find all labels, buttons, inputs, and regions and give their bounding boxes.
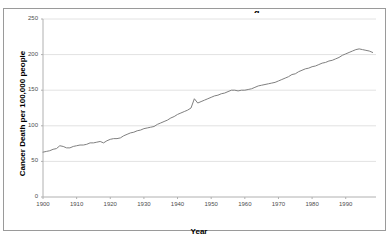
y-tick-label: 0 <box>16 193 38 200</box>
x-tick-label: 1960 <box>232 201 258 208</box>
x-tick-label: 1910 <box>64 201 90 208</box>
x-tick-label: 1940 <box>165 201 191 208</box>
axes-group <box>41 19 346 199</box>
x-tick-label: 1900 <box>30 201 56 208</box>
chart-frame: g 050100150200250 1900191019201930194019… <box>3 8 386 231</box>
data-series-line <box>43 49 373 152</box>
y-tick-label: 250 <box>16 15 38 22</box>
x-axis-title: Year <box>144 227 254 236</box>
gridlines-group <box>43 19 376 197</box>
x-tick-label: 1970 <box>265 201 291 208</box>
y-axis-title: Cancer Death per 100,000 people <box>18 34 27 194</box>
chart-plot-area <box>4 9 387 232</box>
x-tick-label: 1930 <box>131 201 157 208</box>
x-tick-label: 1990 <box>333 201 359 208</box>
x-tick-label: 1920 <box>97 201 123 208</box>
x-tick-label: 1950 <box>198 201 224 208</box>
x-tick-label: 1980 <box>299 201 325 208</box>
